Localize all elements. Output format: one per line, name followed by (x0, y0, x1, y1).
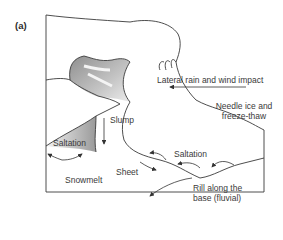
sheet-arrow (140, 162, 156, 170)
label-slump: Slump (110, 115, 134, 125)
saltation-right-arrow-1 (150, 153, 166, 160)
label-snowmelt: Snowmelt (65, 175, 102, 185)
saltation-right-arrow-2 (178, 163, 200, 168)
panel-label: (a) (15, 20, 27, 31)
label-rill-2: base (fluvial) (193, 193, 241, 203)
saltation-right-arrow-3 (212, 161, 234, 167)
label-sheet: Sheet (116, 167, 138, 177)
label-saltation-right: Saltation (174, 149, 207, 159)
label-needle-ice-2: freeze-thaw (209, 111, 279, 121)
saltation-left-arrow-1 (48, 154, 62, 160)
label-saltation-left: Saltation (53, 138, 86, 148)
rill-arrow (150, 178, 192, 196)
label-needle-ice-1: Needle ice and (209, 101, 279, 111)
saltation-left-arrow-2 (62, 154, 82, 160)
label-rill-1: Rill along the (193, 183, 242, 193)
label-lateral-rain-wind: Lateral rain and wind impact (157, 75, 263, 85)
